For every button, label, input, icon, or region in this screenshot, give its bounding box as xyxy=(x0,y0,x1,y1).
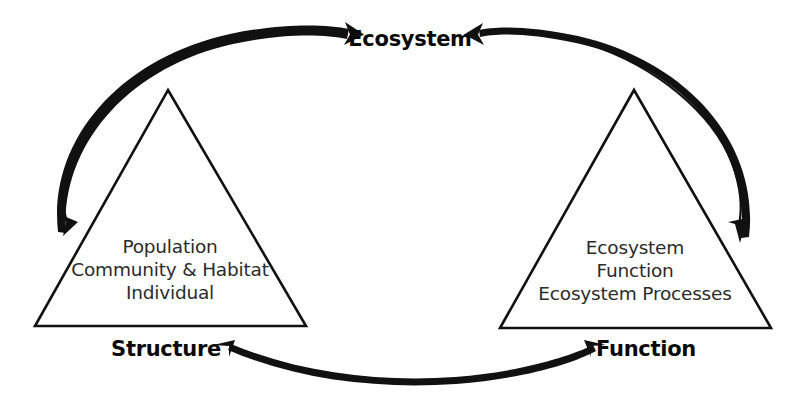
function-triangle-line-2: Function xyxy=(596,260,673,281)
node-label-function: Function xyxy=(596,337,696,361)
structure-triangle-line-3: Individual xyxy=(126,282,214,303)
ecosystem-diagram: Population Community & Habitat Individua… xyxy=(0,0,807,397)
structure-triangle-line-2: Community & Habitat xyxy=(71,259,268,280)
node-label-structure: Structure xyxy=(111,337,221,361)
function-triangle-line-3: Ecosystem Processes xyxy=(538,283,731,304)
structure-triangle-line-1: Population xyxy=(122,236,217,257)
structure-function-arc xyxy=(213,340,606,385)
node-label-ecosystem: Ecosystem xyxy=(348,27,471,51)
function-triangle-line-1: Ecosystem xyxy=(586,237,684,258)
diagram-canvas: Population Community & Habitat Individua… xyxy=(0,0,807,397)
